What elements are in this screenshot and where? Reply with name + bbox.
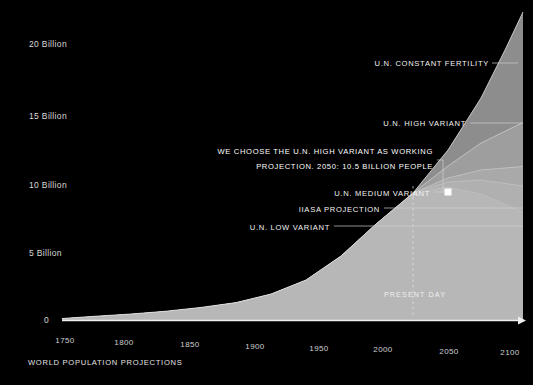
world-population-projections-chart: 20 Billion 15 Billion 10 Billion 5 Billi… bbox=[0, 0, 533, 385]
callout-line-1: WE CHOOSE THE U.N. HIGH VARIANT AS WORKI… bbox=[218, 145, 433, 160]
present-day-label: PRESENT DAY bbox=[384, 290, 446, 299]
y-tick-10-billion: 10 Billion bbox=[29, 180, 67, 190]
y-tick-0: 0 bbox=[44, 315, 49, 325]
label-iiasa-projection: IIASA PROJECTION bbox=[299, 205, 380, 214]
label-medium-variant: U.N. MEDIUM VARIANT bbox=[334, 189, 430, 198]
x-tick-1850: 1850 bbox=[180, 340, 199, 349]
band-low-variant bbox=[62, 187, 523, 321]
x-tick-2050: 2050 bbox=[439, 347, 458, 356]
y-tick-5-billion: 5 Billion bbox=[29, 248, 62, 258]
callout-line-2: PROJECTION. 2050: 10.5 BILLION PEOPLE bbox=[218, 160, 433, 175]
marker-2050-high-variant bbox=[445, 189, 452, 196]
chart-caption: WORLD POPULATION PROJECTIONS bbox=[28, 358, 182, 367]
label-constant-fertility: U.N. CONSTANT FERTILITY bbox=[375, 59, 489, 68]
x-tick-1900: 1900 bbox=[245, 342, 264, 351]
chart-canvas bbox=[0, 0, 533, 385]
x-tick-1750: 1750 bbox=[55, 336, 74, 345]
y-tick-20-billion: 20 Billion bbox=[29, 39, 67, 49]
y-tick-15-billion: 15 Billion bbox=[29, 111, 67, 121]
x-tick-1800: 1800 bbox=[114, 338, 133, 347]
label-high-variant: U.N. HIGH VARIANT bbox=[383, 119, 466, 128]
label-low-variant: U.N. LOW VARIANT bbox=[250, 223, 330, 232]
x-tick-2000: 2000 bbox=[373, 345, 392, 354]
callout-working-projection: WE CHOOSE THE U.N. HIGH VARIANT AS WORKI… bbox=[218, 145, 433, 174]
x-tick-2100: 2100 bbox=[500, 348, 519, 357]
x-tick-1950: 1950 bbox=[309, 344, 328, 353]
